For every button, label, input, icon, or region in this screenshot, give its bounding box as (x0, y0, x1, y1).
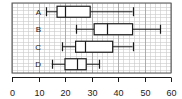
x-axis-ticks (13, 78, 172, 83)
x-tick-label-60: 60 (166, 88, 176, 98)
x-tick-label-20: 20 (60, 88, 70, 98)
boxplot-chart: 0102030405060 ABCD (0, 0, 182, 99)
x-tick-label-10: 10 (34, 88, 44, 98)
category-label-B: B (36, 25, 41, 34)
x-tick-label-40: 40 (113, 88, 123, 98)
category-label-C: C (35, 43, 41, 52)
x-tick-label-30: 30 (87, 88, 97, 98)
category-label-A: A (36, 8, 42, 17)
iqr-box-A (57, 6, 90, 17)
boxplot-canvas: 0102030405060 ABCD (0, 0, 182, 99)
iqr-box-B (94, 24, 132, 35)
x-tick-label-0: 0 (10, 88, 15, 98)
category-label-D: D (35, 60, 41, 69)
x-tick-label-50: 50 (140, 88, 150, 98)
iqr-box-C (76, 41, 113, 52)
x-axis-tick-labels: 0102030405060 (10, 88, 177, 98)
iqr-box-D (65, 59, 86, 70)
